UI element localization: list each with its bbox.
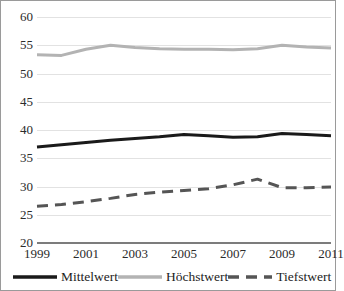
legend-entry-tiefstwert[interactable]: Tiefstwert	[228, 270, 331, 284]
legend-entry-mittelwert[interactable]: Mittelwert	[13, 270, 118, 284]
legend-label: Tiefstwert	[276, 270, 331, 284]
x-axis-tick-labels: 1999200120032005200720092011	[37, 247, 331, 265]
series-group	[37, 17, 331, 243]
y-tick-label-30: 30	[3, 180, 33, 193]
x-tick-label-2005: 2005	[171, 247, 197, 260]
x-tick-label-2007: 2007	[220, 247, 246, 260]
series-line-tiefstwert	[37, 179, 331, 206]
x-tick-label-2001: 2001	[73, 247, 99, 260]
y-tick-label-40: 40	[3, 123, 33, 136]
x-tick-label-2009: 2009	[269, 247, 295, 260]
dashed-line-swatch	[228, 272, 272, 282]
x-tick-label-2011: 2011	[318, 247, 344, 260]
x-tick-label-2003: 2003	[122, 247, 148, 260]
legend-entry-höchstwert[interactable]: Höchstwert	[118, 270, 228, 284]
y-tick-label-50: 50	[3, 67, 33, 80]
y-tick-label-60: 60	[3, 10, 33, 23]
solid-line-swatch	[13, 272, 57, 282]
chart-legend: MittelwertHöchstwertTiefstwert	[9, 267, 329, 287]
series-line-mittelwert	[37, 133, 331, 147]
y-tick-label-35: 35	[3, 151, 33, 164]
y-tick-label-55: 55	[3, 38, 33, 51]
solid-line-swatch	[118, 272, 162, 282]
x-tick-label-1999: 1999	[24, 247, 50, 260]
y-tick-label-25: 25	[3, 208, 33, 221]
series-line-höchstwert	[37, 45, 331, 55]
legend-label: Höchstwert	[166, 270, 228, 284]
y-tick-label-45: 45	[3, 95, 33, 108]
legend-label: Mittelwert	[61, 270, 118, 284]
plot-area	[37, 17, 331, 243]
